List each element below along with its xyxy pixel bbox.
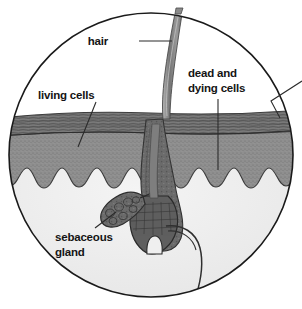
label-sebaceous-gland-line1: sebaceous <box>55 231 113 243</box>
diagram-canvas: hair living cells dead and dying cells s… <box>0 0 302 309</box>
label-sebaceous-gland-line2: gland <box>55 246 85 258</box>
skin-cross-section-diagram: hair living cells dead and dying cells s… <box>0 0 302 309</box>
label-dead-dying-cells-line2: dying cells <box>188 82 245 94</box>
hair-shaft-tip <box>175 8 183 14</box>
circle-contents <box>0 0 302 309</box>
label-living-cells: living cells <box>38 89 94 101</box>
label-dead-dying-cells-line1: dead and <box>188 67 237 79</box>
label-hair: hair <box>88 35 109 47</box>
